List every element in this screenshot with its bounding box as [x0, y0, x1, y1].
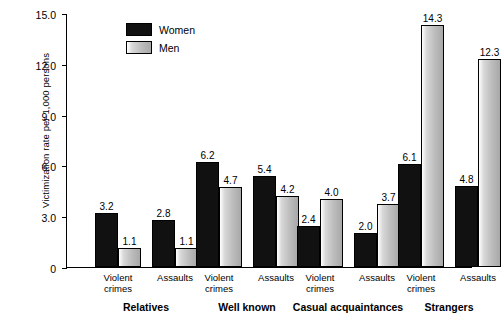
- x-label-relatives-violent: Violent crimes: [104, 272, 133, 294]
- y-axis-title: Victimization rate per 1,000 persons: [40, 16, 51, 246]
- y-tick-mark-15: 15.0: [62, 14, 67, 15]
- x-label-line2: crimes: [306, 283, 334, 294]
- y-tick-label-12: 12.0: [36, 60, 56, 72]
- x-label-line1: Assaults: [258, 272, 294, 283]
- y-tick-mark-12: 12.0: [62, 65, 67, 66]
- bar-value-wellknown-violent-women: 6.2: [201, 150, 215, 161]
- x-label-casual-violent: Violent crimes: [306, 272, 335, 294]
- y-tick-label-9: 9.0: [41, 111, 56, 123]
- x-label-line1: Violent: [205, 272, 234, 283]
- bar-relatives-violent-women: 3.2: [95, 213, 118, 267]
- bar-value-relatives-violent-men: 1.1: [123, 236, 137, 247]
- legend-item-women: Women: [126, 22, 195, 37]
- x-label-strangers-assaults: Assaults: [460, 272, 496, 283]
- bar-value-relatives-assaults-men: 1.1: [180, 236, 194, 247]
- x-label-line1: Violent: [407, 272, 436, 283]
- bar-strangers-assaults-women: 4.8: [455, 186, 478, 267]
- bar-value-strangers-violent-men: 14.3: [423, 13, 442, 24]
- group-label-wellknown: Well known: [218, 301, 276, 313]
- bar-value-casual-assaults-men: 3.7: [382, 192, 396, 203]
- bar-value-relatives-violent-women: 3.2: [100, 201, 114, 212]
- legend-swatch-women-icon: [126, 23, 152, 36]
- x-label-line1: Violent: [104, 272, 133, 283]
- bar-casual-violent-women: 2.4: [297, 226, 320, 267]
- bar-value-strangers-assaults-women: 4.8: [460, 174, 474, 185]
- y-tick-label-6: 6.0: [41, 161, 56, 173]
- x-label-strangers-violent: Violent crimes: [407, 272, 436, 294]
- x-label-line2: crimes: [407, 283, 435, 294]
- x-label-line1: Assaults: [359, 272, 395, 283]
- bar-strangers-assaults-men: 12.3: [478, 59, 501, 267]
- bar-casual-assaults-men: 3.7: [377, 204, 400, 267]
- bar-value-casual-violent-women: 2.4: [302, 214, 316, 225]
- x-label-line2: crimes: [104, 283, 132, 294]
- bar-relatives-violent-men: 1.1: [118, 248, 141, 267]
- x-label-line1: Violent: [306, 272, 335, 283]
- group-label-casual: Casual acquaintances: [293, 301, 403, 313]
- x-label-wellknown-violent: Violent crimes: [205, 272, 234, 294]
- y-tick-label-0: 0: [50, 263, 56, 275]
- y-tick-mark-6: 6.0: [62, 166, 67, 167]
- x-label-line2: crimes: [205, 283, 233, 294]
- bar-wellknown-assaults-women: 5.4: [253, 176, 276, 267]
- x-label-casual-assaults: Assaults: [359, 272, 395, 283]
- bar-wellknown-assaults-men: 4.2: [276, 196, 299, 267]
- bar-relatives-assaults-women: 2.8: [152, 220, 175, 267]
- bar-strangers-violent-men: 14.3: [421, 25, 444, 267]
- x-label-relatives-assaults: Assaults: [157, 272, 193, 283]
- bar-casual-violent-men: 4.0: [320, 199, 343, 267]
- y-tick-label-3: 3.0: [41, 212, 56, 224]
- x-label-line1: Assaults: [460, 272, 496, 283]
- x-label-wellknown-assaults: Assaults: [258, 272, 294, 283]
- bar-value-wellknown-assaults-men: 4.2: [281, 184, 295, 195]
- bar-wellknown-violent-women: 6.2: [196, 162, 219, 267]
- group-label-relatives: Relatives: [123, 301, 169, 313]
- y-tick-mark-3: 3.0: [62, 217, 67, 218]
- x-label-line1: Assaults: [157, 272, 193, 283]
- legend-label-women: Women: [159, 24, 195, 36]
- legend-item-men: Men: [126, 40, 195, 55]
- bar-value-casual-assaults-women: 2.0: [359, 221, 373, 232]
- bar-value-wellknown-assaults-women: 5.4: [258, 164, 272, 175]
- group-label-strangers: Strangers: [424, 301, 473, 313]
- bar-value-strangers-violent-women: 6.1: [403, 152, 417, 163]
- y-tick-mark-0: 0: [62, 268, 67, 269]
- bar-value-relatives-assaults-women: 2.8: [157, 208, 171, 219]
- y-tick-mark-9: 9.0: [62, 116, 67, 117]
- bar-casual-assaults-women: 2.0: [354, 233, 377, 267]
- bar-value-strangers-assaults-men: 12.3: [480, 47, 499, 58]
- bar-value-wellknown-violent-men: 4.7: [224, 175, 238, 186]
- bar-wellknown-violent-men: 4.7: [219, 187, 242, 267]
- bar-relatives-assaults-men: 1.1: [175, 248, 198, 267]
- bar-strangers-violent-women: 6.1: [398, 164, 421, 267]
- y-tick-label-15: 15.0: [36, 9, 56, 21]
- legend: Women Men: [126, 22, 195, 58]
- legend-label-men: Men: [159, 42, 179, 54]
- bar-value-casual-violent-men: 4.0: [325, 187, 339, 198]
- legend-swatch-men-icon: [126, 41, 152, 54]
